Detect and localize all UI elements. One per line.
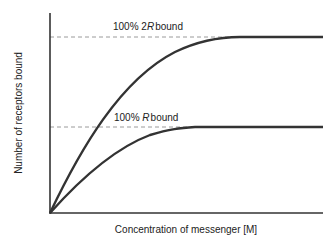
- curve-2r: [50, 37, 323, 213]
- curve-r: [50, 127, 323, 213]
- label-100-2r-bound: 100% 2Rbound: [113, 21, 183, 32]
- y-axis-label: Number of receptors bound: [13, 52, 24, 174]
- label-100-r-bound: 100% Rbound: [114, 112, 178, 123]
- binding-chart: 100% 2Rbound 100% Rbound Concentration o…: [0, 0, 334, 240]
- x-axis-label: Concentration of messenger [M]: [115, 224, 258, 235]
